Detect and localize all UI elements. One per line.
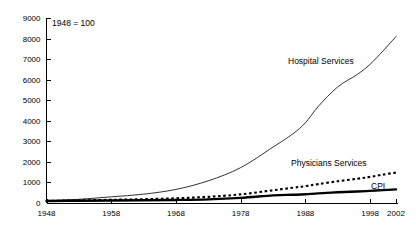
y-axis-tick-label: 3000: [23, 137, 41, 146]
x-axis-tick-label: 1948: [38, 209, 56, 218]
y-axis-tick-label: 4000: [23, 117, 41, 126]
x-axis-tick-label: 1958: [102, 209, 120, 218]
x-axis-tick-label: 1998: [361, 209, 379, 218]
line-chart: 0100020003000400050006000700080009000 19…: [0, 0, 416, 233]
series-label-cpi: CPI: [371, 181, 385, 191]
series-label-hospital-services: Hospital Services: [288, 56, 354, 66]
x-axis-tick-label: 1988: [296, 209, 314, 218]
x-axis-tick-label: 1978: [232, 209, 250, 218]
y-axis-tick-label: 5000: [23, 96, 41, 105]
y-axis-tick-marks: [47, 19, 51, 204]
series-line-physicians-services: [47, 173, 397, 201]
chart-container: 0100020003000400050006000700080009000 19…: [0, 0, 416, 233]
y-axis-tick-label: 6000: [23, 76, 41, 85]
y-axis-tick-label: 1000: [23, 178, 41, 187]
x-axis-tick-labels: 1948195819681978198819982002: [38, 209, 406, 218]
y-axis-tick-labels: 0100020003000400050006000700080009000: [23, 14, 41, 208]
x-axis-tick-label: 1968: [167, 209, 185, 218]
y-axis-tick-label: 8000: [23, 35, 41, 44]
y-axis-tick-label: 7000: [23, 55, 41, 64]
x-axis-tick-label: 2002: [387, 209, 405, 218]
series-label-physicians-services: Physicians Services: [291, 158, 367, 168]
y-axis-tick-label: 0: [36, 199, 41, 208]
y-axis-tick-label: 2000: [23, 158, 41, 167]
y-axis-tick-label: 9000: [23, 14, 41, 23]
index-base-note: 1948 = 100: [52, 18, 95, 28]
